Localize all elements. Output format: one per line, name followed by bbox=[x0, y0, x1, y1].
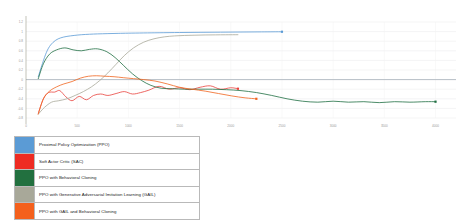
legend-color-swatch bbox=[15, 203, 35, 219]
legend-row[interactable]: PPO with Generative Adversarial Imitatio… bbox=[15, 187, 199, 204]
svg-text:3500: 3500 bbox=[381, 124, 388, 128]
svg-text:1000: 1000 bbox=[125, 124, 132, 128]
legend-color-swatch bbox=[15, 187, 35, 203]
series-end-markers bbox=[237, 31, 437, 103]
svg-text:2000: 2000 bbox=[227, 124, 234, 128]
chart-legend: Proximal Policy Optimization (PPO)Soft A… bbox=[14, 136, 200, 220]
svg-text:1500: 1500 bbox=[176, 124, 183, 128]
x-axis-tick-labels: 05001000150020002500300035004000 bbox=[25, 124, 439, 128]
legend-color-swatch bbox=[15, 170, 35, 186]
legend-color-swatch bbox=[15, 154, 35, 170]
legend-label: PPO with Generative Adversarial Imitatio… bbox=[35, 187, 199, 203]
legend-label: Soft Actor Critic (SAC) bbox=[35, 154, 199, 170]
series-line-3 bbox=[38, 35, 238, 114]
legend-label: PPO with Behavioral Cloning bbox=[35, 170, 199, 186]
series-line-1 bbox=[38, 86, 238, 113]
chart-svg: 1.210.80.60.40.20-0.2-0.4-0.6-0.8 050010… bbox=[0, 0, 458, 136]
svg-text:1: 1 bbox=[21, 30, 23, 34]
svg-text:1.2: 1.2 bbox=[19, 20, 24, 24]
svg-text:0.4: 0.4 bbox=[19, 59, 24, 63]
y-axis-tick-labels: 1.210.80.60.40.20-0.2-0.4-0.6-0.8 bbox=[18, 20, 24, 120]
legend-color-swatch bbox=[15, 137, 35, 153]
svg-text:0: 0 bbox=[21, 78, 23, 82]
legend-row[interactable]: PPO with GAIL and Behavioral Cloning bbox=[15, 203, 199, 219]
legend-row[interactable]: Soft Actor Critic (SAC) bbox=[15, 154, 199, 171]
svg-text:0.2: 0.2 bbox=[19, 68, 24, 72]
series-lines bbox=[38, 32, 435, 114]
training-curve-chart: 1.210.80.60.40.20-0.2-0.4-0.6-0.8 050010… bbox=[0, 0, 458, 136]
svg-text:3000: 3000 bbox=[330, 124, 337, 128]
svg-text:-0.2: -0.2 bbox=[18, 87, 24, 91]
svg-text:-0.8: -0.8 bbox=[18, 116, 24, 120]
svg-text:0.8: 0.8 bbox=[19, 39, 24, 43]
svg-text:-0.4: -0.4 bbox=[18, 97, 24, 101]
svg-text:500: 500 bbox=[75, 124, 80, 128]
svg-text:0: 0 bbox=[25, 124, 27, 128]
series-end-marker-4 bbox=[255, 98, 257, 100]
svg-text:2500: 2500 bbox=[279, 124, 286, 128]
legend-label: PPO with GAIL and Behavioral Cloning bbox=[35, 203, 199, 219]
legend-label: Proximal Policy Optimization (PPO) bbox=[35, 137, 199, 153]
grid-lines bbox=[26, 22, 456, 118]
svg-text:-0.6: -0.6 bbox=[18, 107, 24, 111]
svg-text:4000: 4000 bbox=[432, 124, 439, 128]
series-end-marker-0 bbox=[281, 31, 283, 33]
series-end-marker-1 bbox=[237, 88, 239, 90]
svg-text:0.6: 0.6 bbox=[19, 49, 24, 53]
series-end-marker-2 bbox=[434, 101, 436, 103]
legend-row[interactable]: PPO with Behavioral Cloning bbox=[15, 170, 199, 187]
legend-row[interactable]: Proximal Policy Optimization (PPO) bbox=[15, 137, 199, 154]
